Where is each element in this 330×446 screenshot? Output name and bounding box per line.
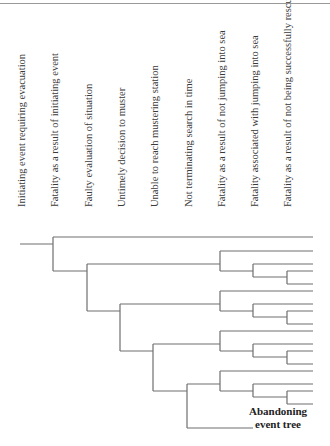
caption-line-1: Abandoning bbox=[249, 405, 307, 418]
abandoning-event-tree-label: Abandoning event tree bbox=[249, 405, 307, 431]
subtree-group-3 bbox=[220, 331, 313, 364]
tree-branches bbox=[20, 237, 313, 428]
event-tree-graph bbox=[0, 0, 330, 446]
subtree-group-1 bbox=[220, 251, 313, 284]
subtree-group-4 bbox=[220, 371, 313, 404]
caption-line-2: event tree bbox=[249, 418, 307, 431]
subtree-group-2 bbox=[220, 291, 313, 324]
